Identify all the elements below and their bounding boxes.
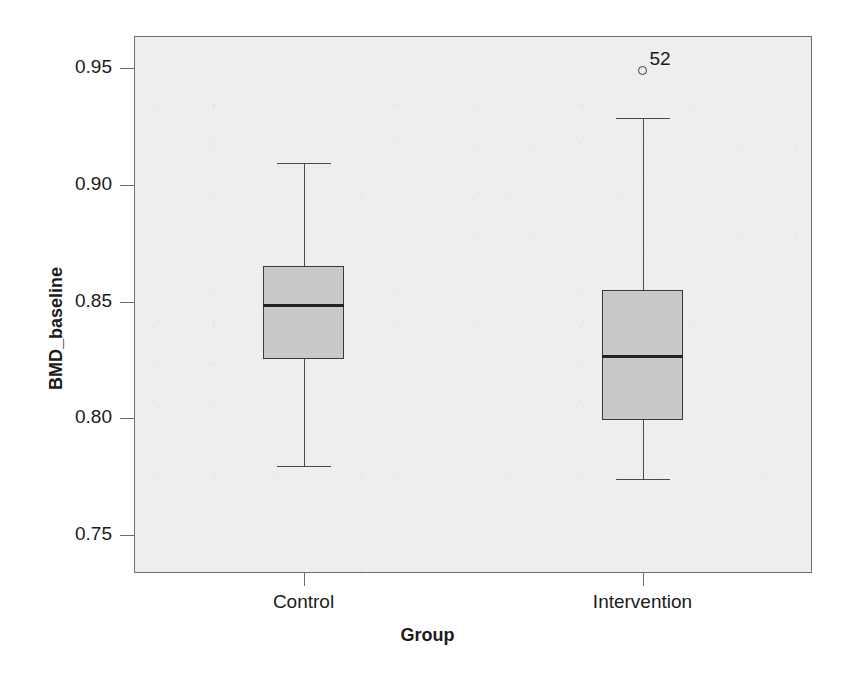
upper-whisker-cap [616, 118, 670, 119]
median-line [602, 355, 683, 358]
upper-whisker-stem [643, 118, 644, 290]
lower-whisker-cap [616, 479, 670, 480]
outlier-marker [638, 66, 647, 75]
box-intervention: 52 [0, 0, 855, 678]
boxplot-figure: non-profit Group, a private institution … [0, 0, 855, 678]
outlier-label: 52 [650, 48, 671, 70]
lower-whisker-stem [643, 420, 644, 478]
